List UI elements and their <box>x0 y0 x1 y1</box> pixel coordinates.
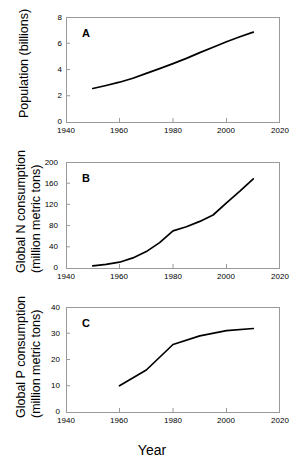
panel-c: Global P consumption (million metric ton… <box>0 290 304 435</box>
panel-c-y-axis-title-line1: Global P consumption <box>14 296 28 418</box>
panel-a-label: A <box>82 27 90 39</box>
panel-b-ytick-40: 40 <box>32 243 58 251</box>
panel-c-ytick-0: 0 <box>34 408 60 416</box>
panel-a-ytick-6: 6 <box>36 40 62 48</box>
panel-a-xtick-2000: 2000 <box>209 127 243 135</box>
panel-a: Population (billions) 8 6 4 2 0 A 1940 1… <box>0 0 304 145</box>
x-axis-title: Year <box>0 442 304 458</box>
panel-c-xtick-2020: 2020 <box>263 417 297 425</box>
panel-a-ytick-2: 2 <box>36 92 62 100</box>
panel-b-y-axis-title-line1: Global N consumption <box>14 150 28 273</box>
panel-c-ytick-10: 10 <box>34 382 60 390</box>
panel-c-ytick-20: 20 <box>34 356 60 364</box>
panel-a-plot-area <box>66 17 280 123</box>
panel-a-xtick-1940: 1940 <box>49 127 83 135</box>
panel-c-plot-area <box>66 307 280 413</box>
panel-c-label: C <box>82 317 90 329</box>
panel-b-ytick-160: 160 <box>32 180 58 188</box>
panel-a-ytick-4: 4 <box>36 66 62 74</box>
panel-a-y-axis-title: Population (billions) <box>17 9 31 118</box>
panel-b-xtick-1980: 1980 <box>156 273 190 281</box>
panel-b-xtick-2000: 2000 <box>209 273 243 281</box>
panel-b-ytick-200: 200 <box>32 159 58 167</box>
panel-a-ytick-8: 8 <box>36 14 62 22</box>
panel-b-xtick-2020: 2020 <box>263 273 297 281</box>
panel-a-xtick-2020: 2020 <box>263 127 297 135</box>
panel-c-ytick-30: 30 <box>34 330 60 338</box>
three-panel-line-figure: Population (billions) 8 6 4 2 0 A 1940 1… <box>0 0 304 465</box>
panel-b-label: B <box>82 172 90 184</box>
panel-b: Global N consumption (million metric ton… <box>0 145 304 290</box>
panel-b-xtick-1940: 1940 <box>49 273 83 281</box>
panel-b-ytick-80: 80 <box>32 222 58 230</box>
panel-c-xtick-1980: 1980 <box>156 417 190 425</box>
panel-b-ytick-120: 120 <box>32 201 58 209</box>
panel-a-xtick-1960: 1960 <box>102 127 136 135</box>
panel-a-xtick-1980: 1980 <box>156 127 190 135</box>
panel-b-xtick-1960: 1960 <box>102 273 136 281</box>
panel-c-xtick-1940: 1940 <box>49 417 83 425</box>
panel-c-xtick-2000: 2000 <box>209 417 243 425</box>
panel-b-plot-area <box>66 162 280 269</box>
panel-a-ytick-0: 0 <box>36 118 62 126</box>
panel-c-ytick-40: 40 <box>34 304 60 312</box>
panel-b-ytick-0: 0 <box>32 264 58 272</box>
panel-c-xtick-1960: 1960 <box>102 417 136 425</box>
